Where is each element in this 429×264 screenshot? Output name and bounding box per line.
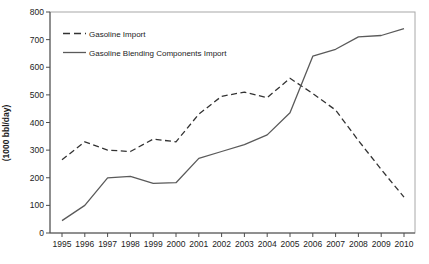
x-tick-label: 1995 [53, 239, 72, 249]
y-tick-label: 300 [30, 145, 44, 155]
x-tick-label: 1998 [121, 239, 140, 249]
y-tick-label: 100 [30, 200, 44, 210]
x-tick-label: 2009 [372, 239, 391, 249]
x-tick-label: 2003 [235, 239, 254, 249]
y-axis-title: (1000 bbl/day) [1, 104, 11, 161]
series-line-gasoline-import [62, 78, 404, 197]
axes: 0100200300400500600700800199519961997199… [30, 7, 415, 249]
y-tick-label: 500 [30, 90, 44, 100]
x-tick-label: 1999 [144, 239, 163, 249]
line-chart: 0100200300400500600700800199519961997199… [0, 0, 429, 264]
plot-frame [50, 12, 415, 233]
legend-item-gasoline-import: Gasoline Import [63, 30, 146, 39]
x-tick-label: 2006 [303, 239, 322, 249]
x-tick-label: 1997 [98, 239, 117, 249]
x-tick-label: 2005 [281, 239, 300, 249]
x-tick-label: 2002 [212, 239, 231, 249]
y-tick-label: 700 [30, 35, 44, 45]
x-tick-label: 2004 [258, 239, 277, 249]
legend: Gasoline Import Gasoline Blending Compon… [63, 30, 227, 58]
legend-label-gasoline-import: Gasoline Import [89, 30, 146, 39]
x-tick-label: 2007 [326, 239, 345, 249]
y-tick-label: 800 [30, 7, 44, 17]
x-tick-label: 1996 [75, 239, 94, 249]
x-tick-label: 2008 [349, 239, 368, 249]
legend-item-blending-components: Gasoline Blending Components Import [63, 49, 227, 58]
y-tick-label: 400 [30, 118, 44, 128]
y-tick-label: 0 [39, 228, 44, 238]
y-tick-label: 600 [30, 62, 44, 72]
legend-label-blending-components: Gasoline Blending Components Import [89, 49, 227, 58]
x-tick-label: 2000 [167, 239, 186, 249]
y-tick-label: 200 [30, 173, 44, 183]
chart-figure: 0100200300400500600700800199519961997199… [0, 0, 429, 264]
x-tick-label: 2010 [395, 239, 414, 249]
x-tick-label: 2001 [189, 239, 208, 249]
